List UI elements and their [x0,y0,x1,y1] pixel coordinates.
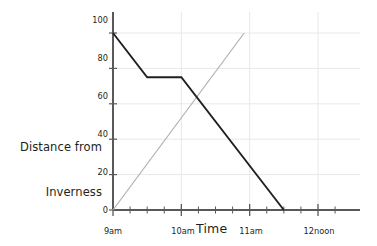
gridlines [113,12,360,210]
return-journey-line [113,33,284,210]
axis-ticks [109,33,335,216]
distance-time-graph: Distance from Inverness Time 0 20 40 60 … [0,0,377,246]
plot-area [0,0,377,246]
